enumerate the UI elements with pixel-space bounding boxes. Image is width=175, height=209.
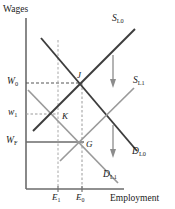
point-label-g: G: [86, 140, 93, 149]
y-axis-title: Wages: [3, 5, 28, 15]
wage-tick-w0-sub: 0: [15, 80, 18, 87]
supply-shift-arrow: [110, 55, 116, 88]
employment-tick-e1: E1: [52, 193, 60, 204]
curve-label-sl0: SL0: [112, 14, 124, 24]
curve-demand-l0: [41, 38, 137, 151]
curve-supply-l0: [33, 29, 135, 131]
wage-tick-w1-sub: 1: [14, 111, 17, 118]
wage-tick-wf: WF: [6, 136, 17, 146]
curve-label-dl1-sub: L1: [110, 173, 117, 180]
curve-label-sl1-sub: L1: [138, 79, 145, 86]
employment-tick-e0: E0: [76, 193, 84, 204]
curve-label-sl0-sub: L0: [117, 17, 124, 24]
wage-tick-w0: W0: [7, 77, 18, 87]
economics-diagram: Wages Employment W0 w1 WF E1 E0 SL0 SL1 …: [0, 0, 175, 209]
curve-label-sl1: SL1: [133, 76, 145, 86]
curve-label-dl0-text: D: [132, 146, 139, 156]
employment-tick-e1-sub: 1: [58, 197, 61, 203]
curve-label-dl0: DL0: [132, 147, 146, 157]
wage-tick-w1: w1: [8, 108, 17, 118]
wage-tick-w0-label: W: [7, 76, 15, 86]
point-label-k: K: [62, 112, 68, 121]
curve-label-dl0-sub: L0: [139, 150, 146, 157]
demand-shift-arrow: [110, 125, 116, 158]
curve-label-dl1-text: D: [103, 169, 110, 179]
curve-supply-l1: [60, 88, 134, 161]
diagram-canvas: [0, 0, 175, 209]
point-label-j: J: [77, 71, 81, 80]
employment-tick-e0-sub: 0: [82, 197, 85, 203]
wage-tick-wf-label: W: [6, 135, 14, 145]
wage-tick-wf-sub: F: [14, 139, 18, 146]
x-axis-title: Employment: [110, 194, 159, 204]
curve-label-dl1: DL1: [103, 170, 117, 180]
